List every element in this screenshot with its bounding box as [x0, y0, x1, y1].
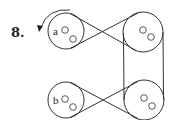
problem-number: 8. — [11, 25, 25, 40]
pulley-top-right — [123, 12, 163, 52]
pulley-bottom-right — [124, 80, 164, 120]
belt-right-open — [124, 32, 164, 100]
belt-b-bottom-right-crossed — [70, 82, 138, 119]
hole-icon — [148, 34, 155, 41]
pulley-belt-diagram: 8. a b — [0, 0, 169, 120]
hole-icon — [141, 95, 148, 102]
hole-icon — [70, 104, 77, 111]
pulley-a-label: a — [53, 25, 58, 37]
pulley-b: b — [48, 82, 84, 118]
hole-icon — [70, 36, 77, 43]
hole-icon — [140, 27, 147, 34]
hole-icon — [149, 103, 156, 110]
hole-icon — [62, 27, 69, 34]
hole-icon — [62, 96, 69, 103]
pulley-a: a — [48, 13, 84, 49]
pulley-b-label: b — [53, 94, 59, 106]
